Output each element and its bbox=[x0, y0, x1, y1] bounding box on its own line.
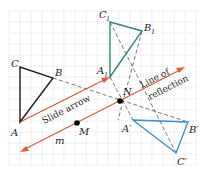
label-b1-sub: 1 bbox=[151, 28, 155, 36]
point-m bbox=[74, 120, 80, 126]
triangle-aprime-bprime-cprime bbox=[133, 120, 188, 153]
label-c1-sub: 1 bbox=[106, 15, 110, 23]
label-a-prime: A′ bbox=[121, 123, 132, 134]
label-c: C bbox=[11, 58, 19, 69]
label-a1-sub: 1 bbox=[104, 71, 108, 79]
label-c-prime: C′ bbox=[177, 156, 188, 167]
dashed-line-a1-to-aprime bbox=[110, 77, 133, 120]
triangle-a1b1c1 bbox=[110, 22, 142, 77]
label-a: A bbox=[10, 127, 18, 138]
label-m-point: M bbox=[78, 126, 90, 137]
reflection-arrow-head-right bbox=[176, 67, 185, 73]
dashed-line-b1-to-aprime bbox=[118, 31, 142, 120]
label-a1: A bbox=[96, 65, 104, 76]
slide-arrow-label: Slide arrow bbox=[40, 93, 92, 126]
glide-reflection-diagram: A B C A 1 B 1 C 1 A′ B′ C′ N M m Slide a… bbox=[0, 0, 210, 180]
label-n: N bbox=[122, 86, 133, 97]
label-m-line: m bbox=[55, 135, 64, 146]
point-n bbox=[117, 98, 123, 104]
label-b: B bbox=[54, 67, 62, 78]
label-b-prime: B′ bbox=[188, 124, 199, 135]
reflection-arrow-head-left bbox=[20, 146, 29, 152]
